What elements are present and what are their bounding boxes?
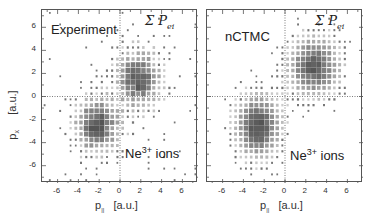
- heatmap-cell: [255, 167, 257, 170]
- x-tick-label: 2: [134, 186, 146, 195]
- heatmap-cell: [344, 93, 346, 95]
- heatmap-cell: [49, 12, 51, 14]
- heatmap-cell: [132, 115, 134, 118]
- heatmap-cell: [169, 52, 171, 54]
- heatmap-cell: [317, 45, 321, 49]
- heatmap-cell: [153, 58, 155, 61]
- heatmap-cell: [94, 114, 99, 119]
- heatmap-cell: [249, 131, 254, 137]
- heatmap-cell: [136, 79, 141, 85]
- heatmap-cell: [333, 74, 336, 78]
- heatmap-cell: [327, 74, 331, 79]
- x-tick-label: 0: [278, 186, 290, 195]
- heatmap-cell: [276, 138, 279, 142]
- heatmap-cell: [244, 132, 248, 137]
- heatmap-cell: [101, 93, 103, 95]
- heatmap-cell: [281, 115, 284, 118]
- heatmap-cell: [286, 69, 289, 72]
- heatmap-cell: [116, 138, 119, 141]
- heatmap-cell: [276, 87, 278, 89]
- heatmap-cell: [91, 64, 93, 66]
- heatmap-cell: [306, 80, 310, 85]
- heatmap-cell: [344, 87, 346, 89]
- heatmap-cell: [234, 104, 236, 107]
- heatmap-cell: [311, 51, 316, 56]
- heatmap-cell: [79, 132, 82, 136]
- heatmap-cell: [174, 122, 176, 124]
- heatmap-cell: [245, 156, 247, 159]
- heatmap-cell: [311, 56, 316, 62]
- heatmap-cell: [328, 98, 330, 100]
- x-tick-label: -4: [236, 186, 248, 195]
- ion-label: Ne3+ ions: [290, 147, 344, 163]
- heatmap-cell: [106, 156, 108, 158]
- heatmap-cell: [322, 62, 327, 67]
- heatmap-cell: [141, 91, 146, 96]
- heatmap-cell: [152, 69, 156, 73]
- heatmap-cell: [152, 86, 155, 90]
- heatmap-cell: [286, 46, 288, 49]
- panel-nctmc: nCTMC Σ Pei Ne3+ ions: [206, 9, 362, 182]
- heatmap-cell: [328, 86, 331, 89]
- heatmap-cell: [121, 86, 125, 90]
- heatmap-cell: [276, 92, 278, 95]
- x-axis-title-left: p|| [a.u.]: [95, 199, 138, 213]
- heatmap-cell: [240, 92, 242, 95]
- heatmap-cell: [110, 138, 114, 142]
- heatmap-cell: [163, 168, 165, 170]
- heatmap-cell: [282, 46, 284, 48]
- heatmap-cell: [281, 98, 283, 100]
- heatmap-cell: [224, 127, 226, 129]
- heatmap-cell: [79, 115, 83, 119]
- heatmap-cell: [271, 162, 273, 164]
- heatmap-cell: [105, 120, 110, 125]
- heatmap-cell: [292, 110, 294, 112]
- heatmap-cell: [297, 98, 299, 100]
- heatmap-cell: [307, 86, 311, 90]
- heatmap-cell: [89, 114, 94, 119]
- heatmap-cell: [235, 162, 237, 164]
- heatmap-cell: [65, 173, 67, 175]
- y-tick-label: -4: [22, 137, 36, 146]
- heatmap-cell: [333, 98, 335, 100]
- heatmap-cell: [96, 168, 98, 170]
- heatmap-cell: [163, 98, 165, 101]
- heatmap-cell: [127, 133, 129, 136]
- heatmap-cell: [301, 68, 306, 73]
- heatmap-cell: [282, 162, 284, 164]
- heatmap-cell: [275, 121, 279, 125]
- heatmap-cell: [142, 115, 144, 118]
- heatmap-cell: [296, 86, 299, 90]
- heatmap-cell: [281, 110, 284, 113]
- heatmap-cell: [302, 98, 304, 101]
- heatmap-cell: [94, 137, 99, 142]
- heatmap-cell: [132, 109, 135, 112]
- heatmap-cell: [229, 110, 231, 113]
- heatmap-cell: [281, 127, 284, 130]
- heatmap-cell: [302, 40, 305, 43]
- heatmap-cell: [152, 92, 155, 96]
- heatmap-cell: [264, 125, 269, 131]
- heatmap-cell: [281, 52, 283, 54]
- heatmap-cell: [245, 98, 248, 101]
- heatmap-cell: [261, 81, 263, 83]
- heatmap-cell: [322, 74, 327, 79]
- heatmap-cell: [101, 41, 103, 43]
- heatmap-cell: [127, 46, 129, 48]
- heatmap-cell: [244, 144, 248, 148]
- heatmap-cell: [111, 69, 113, 71]
- heatmap-cell: [121, 109, 124, 113]
- heatmap-cell: [328, 35, 330, 38]
- heatmap-cell: [195, 168, 197, 170]
- heatmap-cell: [146, 80, 151, 85]
- heatmap-cell: [328, 92, 330, 95]
- heatmap-cell: [306, 51, 310, 56]
- heatmap-cell: [116, 104, 118, 107]
- heatmap-cell: [122, 35, 124, 37]
- heatmap-cell: [234, 115, 237, 118]
- heatmap-cell: [100, 137, 105, 142]
- heatmap-cell: [148, 168, 150, 170]
- heatmap-cell: [271, 75, 273, 77]
- heatmap-cell: [312, 45, 316, 50]
- heatmap-cell: [271, 150, 274, 153]
